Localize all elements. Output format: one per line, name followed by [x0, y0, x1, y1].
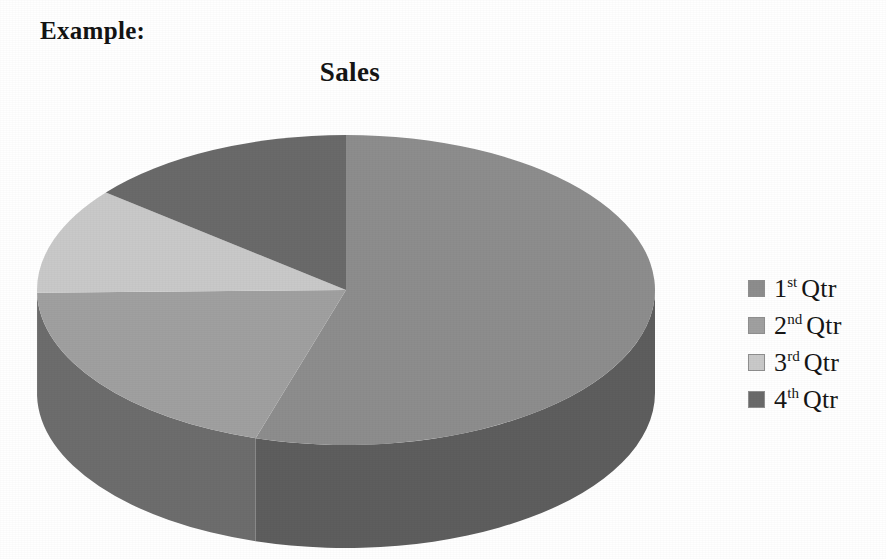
legend-label-4th-qtr: 4thQtr — [774, 387, 838, 413]
legend-ordinal-2: 2 — [774, 311, 787, 340]
pie-chart-svg — [0, 110, 700, 559]
legend-name-1: Qtr — [801, 274, 836, 303]
legend-label-2nd-qtr: 2ndQtr — [774, 313, 842, 339]
chart-legend: 1stQtr 2ndQtr 3rdQtr 4thQtr — [748, 270, 878, 418]
legend-swatch-3rd-qtr — [748, 354, 765, 371]
legend-suffix-1: st — [787, 274, 797, 290]
legend-suffix-3: rd — [787, 348, 800, 364]
legend-suffix-4: th — [787, 385, 799, 401]
legend-item-3rd-qtr[interactable]: 3rdQtr — [748, 344, 878, 381]
chart-title: Sales — [0, 57, 700, 88]
legend-item-4th-qtr[interactable]: 4thQtr — [748, 381, 878, 418]
legend-ordinal-3: 3 — [774, 348, 787, 377]
legend-ordinal-4: 4 — [774, 385, 787, 414]
legend-swatch-4th-qtr — [748, 391, 765, 408]
legend-label-3rd-qtr: 3rdQtr — [774, 350, 839, 376]
legend-swatch-2nd-qtr — [748, 317, 765, 334]
legend-name-4: Qtr — [803, 385, 838, 414]
legend-label-1st-qtr: 1stQtr — [774, 276, 837, 302]
legend-swatch-1st-qtr — [748, 280, 765, 297]
chart-page: Example: Sales 1stQtr 2ndQtr 3rdQtr 4thQ… — [0, 0, 886, 559]
example-caption: Example: — [40, 17, 145, 45]
legend-name-3: Qtr — [804, 348, 839, 377]
legend-item-2nd-qtr[interactable]: 2ndQtr — [748, 307, 878, 344]
legend-name-2: Qtr — [806, 311, 841, 340]
pie-chart-plot-area — [0, 110, 700, 559]
pie-top-surface — [37, 135, 655, 445]
legend-suffix-2: nd — [787, 311, 802, 327]
legend-ordinal-1: 1 — [774, 274, 787, 303]
legend-item-1st-qtr[interactable]: 1stQtr — [748, 270, 878, 307]
